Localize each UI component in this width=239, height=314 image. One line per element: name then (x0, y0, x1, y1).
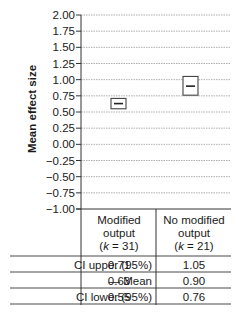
y-tick-label: −0.50 (46, 171, 75, 183)
effect-size-chart: Mean effect size 2.001.751.501.251.000.7… (0, 0, 239, 314)
cell-ci-upper-modified: 0.71 (82, 257, 156, 273)
cell-mean-modified: 0.63 (82, 273, 156, 289)
y-tick-label: 1.75 (53, 25, 75, 37)
y-tick-label: 1.50 (53, 41, 75, 53)
y-axis-label: Mean effect size (26, 65, 38, 153)
y-tick-label: −1.00 (46, 203, 75, 215)
cell-ci-upper-no-modified: 1.05 (156, 257, 232, 273)
y-tick-label: 0.50 (53, 106, 75, 118)
y-tick-label: 0.75 (53, 90, 75, 102)
y-tick-label: 1.00 (53, 74, 75, 86)
y-tick-label: −0.75 (46, 187, 75, 199)
y-tick-label: 2.00 (53, 9, 75, 21)
y-tick-label: 1.25 (53, 58, 75, 70)
y-tick-label: −0.25 (46, 155, 75, 167)
y-tick-label: 0.25 (53, 122, 75, 134)
cell-ci-lower-modified: 0.55 (82, 289, 156, 305)
column-header-modified: Modified output (k = 31) (82, 214, 156, 253)
cell-ci-lower-no-modified: 0.76 (156, 289, 232, 305)
column-header-no-modified: No modified output (k = 21) (156, 214, 232, 253)
y-tick-label: 0.00 (53, 138, 75, 150)
cell-mean-no-modified: 0.90 (156, 273, 232, 289)
